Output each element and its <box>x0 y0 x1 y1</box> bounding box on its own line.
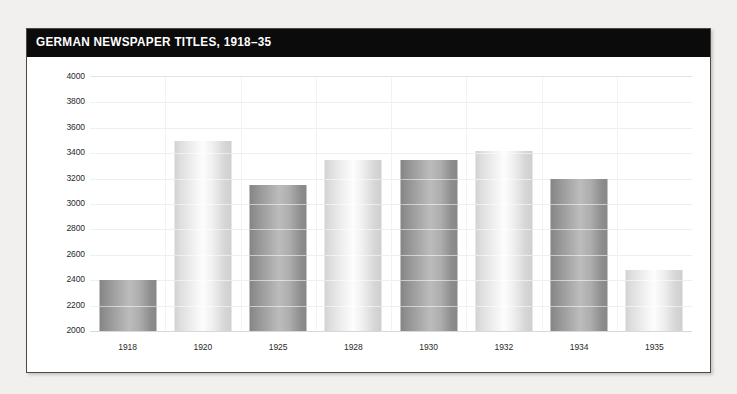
bar-gridline <box>626 280 683 281</box>
bar-1920[interactable] <box>174 141 231 332</box>
x-tick-slot: 1920 <box>165 332 240 356</box>
x-axis-tick-label: 1934 <box>570 342 589 352</box>
x-tick-slot: 1925 <box>241 332 316 356</box>
bar-gridline <box>325 255 382 256</box>
x-tick-slot: 1934 <box>542 332 617 356</box>
bar-1918[interactable] <box>99 280 156 331</box>
bar-gridline <box>250 255 307 256</box>
x-axis-tick-label: 1928 <box>344 342 363 352</box>
bar-1935[interactable] <box>626 270 683 331</box>
x-tick-slot: 1935 <box>617 332 692 356</box>
bar-gridline <box>475 229 532 230</box>
x-tick-slot: 1928 <box>316 332 391 356</box>
bar-slot <box>391 77 466 331</box>
bar-gridline <box>551 280 608 281</box>
bar-gridline <box>325 280 382 281</box>
bar-slot <box>617 77 692 331</box>
bar-gridline <box>250 306 307 307</box>
x-axis-tick-label: 1920 <box>193 342 212 352</box>
bar-1932[interactable] <box>475 151 532 331</box>
bar-gridline <box>250 280 307 281</box>
bar-gridline <box>99 306 156 307</box>
bar-gridline <box>475 179 532 180</box>
bar-gridline <box>325 204 382 205</box>
bar-gridline <box>475 153 532 154</box>
bar-1925[interactable] <box>250 185 307 331</box>
y-axis-tick-label: 2000 <box>49 325 85 335</box>
x-tick-slot: 1930 <box>391 332 466 356</box>
y-axis-tick-label: 4000 <box>49 71 85 81</box>
bar-gridline <box>551 204 608 205</box>
bar-gridline <box>174 153 231 154</box>
y-axis-tick-label: 3200 <box>49 173 85 183</box>
bar-gridline <box>400 280 457 281</box>
bar-1928[interactable] <box>325 160 382 331</box>
y-axis-tick-label: 3800 <box>49 96 85 106</box>
x-tick-slot: 1918 <box>90 332 165 356</box>
x-axis-tick-label: 1935 <box>645 342 664 352</box>
plot-area <box>90 76 692 332</box>
bar-gridline <box>551 255 608 256</box>
x-axis-tick-label: 1918 <box>118 342 137 352</box>
bar-gridline <box>551 229 608 230</box>
bar-gridline <box>400 204 457 205</box>
bar-gridline <box>174 255 231 256</box>
bar-gridline <box>250 229 307 230</box>
y-axis-tick-label: 3000 <box>49 198 85 208</box>
bar-gridline <box>174 229 231 230</box>
y-axis-tick-label: 3600 <box>49 122 85 132</box>
y-axis: 2000220024002600280030003200340036003800… <box>43 76 85 332</box>
bar-gridline <box>400 306 457 307</box>
chart-title-bar: GERMAN NEWSPAPER TITLES, 1918–35 <box>27 29 710 57</box>
page-title: GERMAN NEWSPAPER TITLES, 1918–35 <box>36 35 271 49</box>
bar-slot <box>316 77 391 331</box>
bar-gridline <box>475 204 532 205</box>
bar-gridline <box>174 306 231 307</box>
y-axis-tick-label: 3400 <box>49 147 85 157</box>
y-axis-tick-label: 2200 <box>49 300 85 310</box>
bar-slot <box>90 77 165 331</box>
bar-gridline <box>475 280 532 281</box>
plot-wrapper: 2000220024002600280030003200340036003800… <box>27 57 710 372</box>
bar-gridline <box>551 306 608 307</box>
bar-gridline <box>475 255 532 256</box>
bar-gridline <box>475 306 532 307</box>
y-axis-tick-label: 2400 <box>49 274 85 284</box>
bar-slot <box>542 77 617 331</box>
x-axis: 19181920192519281930193219341935 <box>90 332 692 356</box>
chart-card: GERMAN NEWSPAPER TITLES, 1918–35 2000220… <box>26 28 711 373</box>
x-tick-slot: 1932 <box>466 332 541 356</box>
bar-slot <box>165 77 240 331</box>
bar-gridline <box>325 229 382 230</box>
bar-gridline <box>325 179 382 180</box>
bar-gridline <box>626 306 683 307</box>
bar-gridline <box>174 204 231 205</box>
bar-gridline <box>174 280 231 281</box>
bar-gridline <box>174 179 231 180</box>
bar-gridline <box>400 255 457 256</box>
y-axis-tick-label: 2800 <box>49 223 85 233</box>
bar-slot <box>466 77 541 331</box>
y-axis-tick-label: 2600 <box>49 249 85 259</box>
x-axis-tick-label: 1932 <box>494 342 513 352</box>
x-axis-tick-label: 1925 <box>269 342 288 352</box>
bar-gridline <box>325 306 382 307</box>
bar-gridline <box>400 229 457 230</box>
x-axis-tick-label: 1930 <box>419 342 438 352</box>
bar-slot <box>241 77 316 331</box>
bar-gridline <box>400 179 457 180</box>
bar-gridline <box>250 204 307 205</box>
bar-1930[interactable] <box>400 160 457 331</box>
bar-1934[interactable] <box>551 179 608 331</box>
